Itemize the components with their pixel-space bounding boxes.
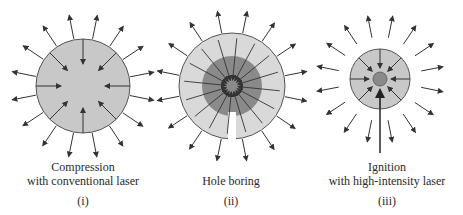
- panel-label: (iii): [329, 194, 446, 208]
- panel-hole-boring: [157, 11, 306, 160]
- caption-line2: with high-intensity laser: [329, 174, 446, 188]
- panel-label: (i): [27, 194, 139, 208]
- caption-line1: Ignition: [329, 160, 446, 174]
- panel-ignition: [317, 16, 443, 153]
- panel-label: (ii): [202, 194, 260, 208]
- caption-ignition: Ignition with high-intensity laser (iii): [329, 160, 446, 208]
- caption-line1: Compression: [27, 160, 139, 174]
- caption-line1: Hole boring: [202, 174, 260, 188]
- caption-compression: Compression with conventional laser (i): [27, 160, 139, 208]
- caption-hole-boring: Hole boring (ii): [202, 174, 260, 208]
- panel-compression: [12, 15, 153, 156]
- caption-line2: with conventional laser: [27, 174, 139, 188]
